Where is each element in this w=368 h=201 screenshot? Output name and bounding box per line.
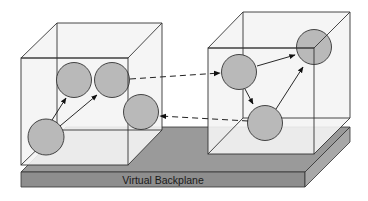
virtual-backplane-diagram: Virtual Backplane [0,0,368,201]
left-node-3 [124,95,159,130]
left-cube [21,23,162,165]
left-node-1 [57,63,92,98]
backplane-label: Virtual Backplane [122,174,204,186]
right-node-3 [248,106,283,141]
left-node-2 [95,63,130,98]
left-node-4 [28,119,64,155]
right-cube [208,12,350,154]
right-node-1 [222,55,257,90]
